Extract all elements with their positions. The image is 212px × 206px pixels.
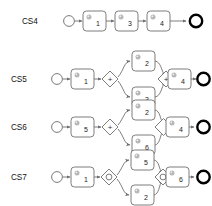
- task-number: 6: [179, 176, 183, 183]
- user-task-icon: [75, 121, 80, 126]
- user-task-icon: [170, 171, 175, 176]
- gateway-split-cs6: +: [102, 119, 118, 135]
- sequence-flow: [118, 110, 130, 125]
- user-task-icon: [135, 154, 140, 159]
- bpmn-diagram: CS4 1 3 4: [0, 0, 212, 206]
- task-cs6-5: 5: [71, 117, 94, 137]
- user-task-icon: [75, 73, 80, 78]
- row-label-cs6: CS6: [11, 123, 27, 132]
- parallel-gateway-marker: +: [108, 123, 113, 132]
- task-number: 2: [145, 60, 149, 67]
- user-task-icon: [136, 139, 141, 144]
- task-cs5-2: 2: [132, 51, 155, 71]
- inclusive-gateway-circle: [106, 174, 112, 180]
- task-number: 4: [179, 126, 183, 133]
- user-task-icon: [136, 104, 141, 109]
- end-event-cs6: [197, 121, 209, 133]
- task-number: 5: [144, 159, 148, 166]
- parallel-gateway-marker: +: [108, 75, 113, 84]
- user-task-icon: [119, 15, 124, 20]
- gateway-split-cs5: +: [102, 71, 118, 87]
- start-event-cs4: [64, 16, 75, 27]
- row-label-cs5: CS5: [11, 75, 27, 84]
- start-event-cs7: [52, 172, 63, 183]
- user-task-icon: [136, 91, 141, 96]
- user-task-icon: [75, 171, 80, 176]
- row-label-cs7: CS7: [11, 173, 27, 182]
- sequence-flow: [118, 129, 130, 145]
- task-cs7-1: 1: [71, 167, 94, 187]
- task-number: 2: [144, 194, 148, 201]
- bpmn-canvas: CS4 1 3 4: [0, 0, 212, 206]
- task-cs7-5: 5: [131, 150, 154, 170]
- process-row-cs5: CS5 1 + 2 3: [11, 51, 210, 107]
- gateway-split-cs7: [101, 169, 117, 185]
- process-row-cs4: CS4 1 3 4: [22, 11, 202, 31]
- row-label-cs4: CS4: [22, 17, 38, 26]
- task-number: 5: [84, 126, 88, 133]
- task-number: 3: [128, 20, 132, 27]
- task-cs4-1: 1: [83, 11, 106, 31]
- task-number: 4: [181, 78, 185, 85]
- end-event-cs4: [190, 15, 202, 27]
- process-row-cs7: CS7 1 5 2: [11, 150, 210, 205]
- process-row-cs6: CS6 5 + 2 6: [11, 100, 210, 155]
- task-number: 2: [145, 109, 149, 116]
- task-number: 1: [96, 20, 100, 27]
- task-number: 4: [160, 20, 164, 27]
- task-cs4-4: 4: [147, 11, 170, 31]
- task-cs5-1: 1: [71, 69, 94, 89]
- start-event-cs6: [52, 122, 63, 133]
- task-number: 1: [84, 176, 88, 183]
- user-task-icon: [135, 189, 140, 194]
- task-cs6-4: 4: [166, 117, 189, 137]
- sequence-flow: [118, 61, 130, 77]
- end-event-cs7: [197, 171, 209, 183]
- end-event-cs5: [197, 73, 209, 85]
- sequence-flow: [117, 160, 129, 175]
- task-cs7-2: 2: [131, 185, 154, 205]
- task-cs6-2: 2: [132, 100, 155, 120]
- inclusive-gateway-circle: [160, 174, 166, 180]
- user-task-icon: [170, 121, 175, 126]
- user-task-icon: [136, 55, 141, 60]
- task-cs4-3: 3: [115, 11, 138, 31]
- task-number: 1: [84, 78, 88, 85]
- user-task-icon: [87, 15, 92, 20]
- user-task-icon: [151, 15, 156, 20]
- task-cs5-4: 4: [168, 69, 191, 89]
- user-task-icon: [172, 73, 177, 78]
- task-cs7-6: 6: [166, 167, 189, 187]
- sequence-flow: [117, 179, 129, 195]
- start-event-cs5: [52, 74, 63, 85]
- sequence-flow: [118, 81, 130, 97]
